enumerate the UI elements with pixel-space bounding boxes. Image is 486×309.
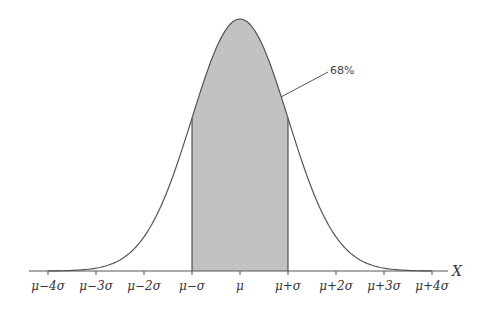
x-tick-label: μ−3σ [79, 279, 113, 293]
x-tick-label: μ+3σ [367, 279, 401, 293]
x-tick-label: μ−4σ [31, 279, 65, 293]
normal-distribution-chart: μ−4σμ−3σμ−2σμ−σμμ+σμ+2σμ+3σμ+4σ X 68% [0, 0, 486, 309]
annotation-68-percent: 68% [330, 64, 354, 77]
x-tick-label: μ [236, 279, 244, 293]
shaded-68-percent-region [192, 19, 288, 271]
x-axis-tick-labels: μ−4σμ−3σμ−2σμ−σμμ+σμ+2σμ+3σμ+4σ [31, 279, 449, 293]
annotation-leader-line [281, 72, 328, 97]
x-tick-label: μ+4σ [415, 279, 449, 293]
x-axis-variable-label: X [451, 263, 463, 279]
x-axis-ticks [48, 271, 432, 275]
x-tick-label: μ+2σ [319, 279, 353, 293]
x-tick-label: μ−2σ [127, 279, 161, 293]
x-tick-label: μ+σ [275, 279, 302, 293]
x-tick-label: μ−σ [179, 279, 206, 293]
